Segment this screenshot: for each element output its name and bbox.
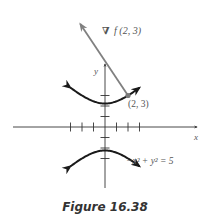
point-label: (2, 3) — [128, 99, 149, 110]
y-axis-label: y — [93, 66, 98, 76]
point-2-3-marker — [125, 93, 130, 98]
hyperbola-figure: x y ∇ f (2, 3) (2, 3) −x² + y² = 5 — [0, 0, 210, 224]
nabla-symbol: ∇ — [102, 25, 110, 36]
gradient-label: ∇ f (2, 3) — [102, 25, 142, 37]
equation-label: −x² + y² = 5 — [126, 156, 174, 166]
gradient-label-text: f (2, 3) — [114, 25, 142, 37]
x-axis-label: x — [193, 132, 198, 142]
figure-caption: Figure 16.38 — [0, 200, 210, 214]
axes: x y — [13, 64, 198, 188]
